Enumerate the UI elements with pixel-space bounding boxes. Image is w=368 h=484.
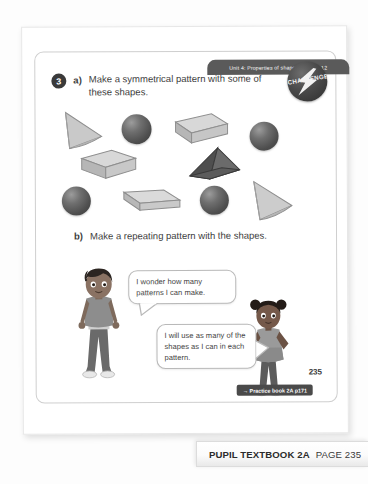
shape-cuboid-1: [173, 112, 229, 146]
part-b-text: Make a repeating pattern with the shapes…: [90, 230, 267, 242]
shape-sphere-4: [200, 186, 229, 215]
practice-book-tag: → Practice book 2A p171: [237, 384, 313, 395]
caption-page-label: PAGE 235: [316, 449, 361, 460]
page-number: 235: [309, 367, 322, 376]
shape-sphere-3: [62, 186, 91, 215]
part-b-letter: b): [74, 230, 83, 241]
shape-sphere-2: [250, 122, 279, 151]
speech-bubble-girl: I will use as many of the shapes as I ca…: [156, 324, 256, 369]
speech-bubble-boy-tail: [137, 303, 159, 316]
challenge-badge: CHALLENGE: [287, 61, 327, 101]
part-a-letter: a): [73, 74, 82, 85]
screenshot-stage: Unit 4: Properties of shapes, Lesson 12 …: [0, 0, 368, 484]
question-row-a: 3 a) Make a symmetrical pattern with som…: [51, 71, 313, 99]
shapes-group: [35, 105, 338, 222]
shape-triangular-prism-1: [188, 146, 244, 182]
speech-bubble-girl-tail: [255, 339, 269, 361]
shape-sphere-1: [121, 114, 151, 144]
caption-book-title: PUPIL TEXTBOOK 2A: [209, 449, 310, 460]
question-number-badge: 3: [51, 74, 66, 89]
boy-character: [70, 266, 127, 384]
question-row-b: b) Make a repeating pattern with the sha…: [74, 230, 267, 242]
shape-cuboid-2: [80, 148, 138, 182]
caption-bar: PUPIL TEXTBOOK 2A PAGE 235: [196, 441, 368, 467]
speech-bubble-boy-text: I wonder how many patterns I can make.: [136, 277, 205, 297]
content-frame: Unit 4: Properties of shapes, Lesson 12 …: [34, 50, 338, 403]
part-a-text: Make a symmetrical pattern with some of …: [89, 72, 285, 100]
shape-cuboid-slab-1: [112, 188, 182, 216]
speech-bubble-girl-text: I will use as many of the shapes as I ca…: [164, 331, 245, 362]
shape-cone-2: [248, 180, 296, 222]
textbook-page-sheet: Unit 4: Properties of shapes, Lesson 12 …: [21, 25, 349, 434]
shape-cone-1: [59, 110, 105, 150]
speech-bubble-boy: I wonder how many patterns I can make.: [128, 270, 236, 304]
